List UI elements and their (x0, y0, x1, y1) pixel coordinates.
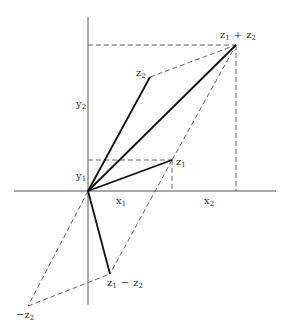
vector-diagram: z1+z2 z2 z1 y2 y1 x1 x2 z1−z2 −z2 (0, 0, 283, 327)
vector-z1 (88, 160, 172, 191)
label-y1: y1 (75, 170, 86, 183)
label-x1: x1 (116, 195, 126, 208)
z2-to-sum-edge (150, 45, 236, 77)
z1-to-diff-edge (110, 160, 172, 274)
label-neg-z2: −z2 (16, 309, 34, 322)
label-y2: y2 (75, 98, 86, 111)
negz2-to-diff-edge (28, 274, 110, 306)
label-z1: z1 (176, 156, 186, 169)
label-sum: z1+z2 (220, 29, 256, 42)
origin-to-negz2-edge (28, 191, 88, 306)
label-diff: z1−z2 (107, 277, 143, 290)
label-z2: z2 (136, 67, 146, 80)
z1-to-sum-edge (172, 45, 236, 160)
vectors (88, 45, 236, 274)
label-x2: x2 (204, 195, 214, 208)
vector-sum (88, 45, 236, 191)
vector-diff (88, 191, 110, 274)
vector-z2 (88, 77, 150, 191)
